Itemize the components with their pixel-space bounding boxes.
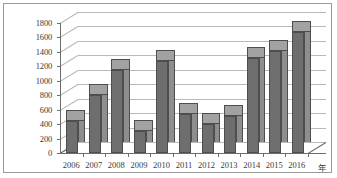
x-axis-title: 年 (318, 161, 327, 173)
gridline-depth-connector (60, 27, 79, 39)
gridline (78, 26, 326, 27)
y-axis-tick-label: 0 (24, 149, 52, 157)
gridline (78, 41, 326, 42)
x-axis-tick-mark (195, 154, 196, 157)
y-axis-tick-label: 200 (24, 135, 52, 143)
bar-top-face (269, 40, 288, 51)
bar-2009[interactable] (134, 131, 146, 153)
bar-top-face (134, 120, 153, 131)
gridline-depth-connector (60, 84, 79, 96)
bar-top-face (224, 105, 243, 116)
bar-side-face (123, 59, 130, 142)
x-axis-tick-mark (308, 154, 309, 157)
y-axis-tick-label: 400 (24, 120, 52, 128)
bar-2012[interactable] (202, 124, 214, 153)
bar-2008[interactable] (111, 70, 123, 153)
bar-2007[interactable] (89, 95, 101, 153)
x-axis-tick-mark (150, 154, 151, 157)
gridline-depth-connector (60, 12, 79, 24)
bar-side-face (304, 21, 311, 142)
bar-2015[interactable] (269, 51, 281, 153)
y-axis-line (60, 23, 61, 154)
x-axis-tick-mark (128, 154, 129, 157)
y-axis-tick-label: 1400 (24, 48, 52, 56)
x-axis-category-label-2016: 2016 (283, 161, 310, 170)
bar-top-face (156, 50, 175, 61)
gridline-depth-connector (60, 99, 79, 111)
y-axis-tick-label: 1600 (24, 33, 52, 41)
gridline (78, 55, 326, 56)
y-axis-tick-label: 600 (24, 106, 52, 114)
bar-chart-plot-area: 年 18001600140012001000800600400200020062… (4, 4, 333, 174)
x-axis-tick-mark (105, 154, 106, 157)
bar-side-face (281, 40, 288, 142)
bar-top-face (179, 103, 198, 114)
x-axis-tick-mark (83, 154, 84, 157)
bar-2016[interactable] (292, 32, 304, 153)
y-axis-tick-label: 1800 (24, 19, 52, 27)
bar-top-face (66, 110, 85, 121)
y-axis-tick-label: 800 (24, 91, 52, 99)
bar-top-face (292, 21, 311, 32)
bar-side-face (259, 47, 266, 142)
bar-top-face (202, 113, 221, 124)
x-axis-tick-mark (285, 154, 286, 157)
y-axis-tick-label: 1000 (24, 77, 52, 85)
gridline (78, 12, 326, 13)
bar-2011[interactable] (179, 114, 191, 153)
bar-2010[interactable] (156, 61, 168, 153)
gridline-depth-connector (60, 70, 79, 82)
y-axis-tick-label: 1200 (24, 62, 52, 70)
bar-2006[interactable] (66, 121, 78, 153)
gridline-depth-connector (60, 55, 79, 67)
x-axis-tick-mark (240, 154, 241, 157)
bar-2013[interactable] (224, 116, 236, 153)
bar-top-face (247, 47, 266, 58)
chart-frame: 年 18001600140012001000800600400200020062… (3, 3, 332, 173)
x-axis-tick-mark (263, 154, 264, 157)
bar-2014[interactable] (247, 58, 259, 153)
x-axis-tick-mark (173, 154, 174, 157)
bar-top-face (111, 59, 130, 70)
x-axis-tick-mark (218, 154, 219, 157)
bar-side-face (168, 50, 175, 142)
gridline-depth-connector (60, 41, 79, 53)
bar-top-face (89, 84, 108, 95)
